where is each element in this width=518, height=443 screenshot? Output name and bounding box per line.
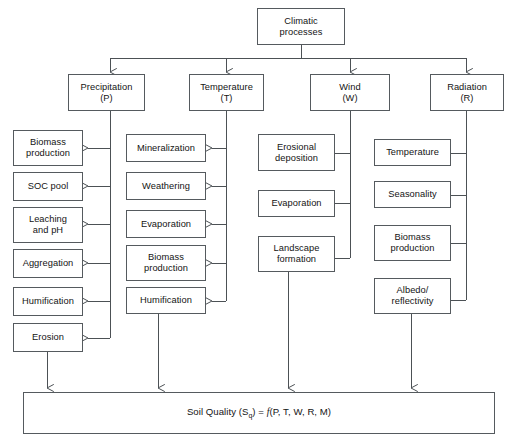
box-climatic-processes-label: Climatic processes [278,16,325,38]
box-soil-quality[interactable]: Soil Quality (Sq) = f(P, T, W, R, M) [23,392,495,434]
box-wind-label: Wind (W) [337,82,362,104]
box-temp-biomass-production-label: Biomass production [142,252,190,274]
soil-quality-prefix: Soil Quality (S [187,406,249,417]
box-radiation[interactable]: Radiation (R) [430,74,504,111]
box-precipitation-label: Precipitation (P) [79,82,135,104]
soil-quality-arguments: (P, T, W, R, M) [269,406,331,417]
box-precip-aggregation[interactable]: Aggregation [13,249,83,278]
box-temp-humification-label: Humification [138,295,194,306]
box-precip-leaching-and-ph-label: Leaching and pH [27,214,69,236]
box-precipitation[interactable]: Precipitation (P) [68,74,145,111]
box-climatic-processes[interactable]: Climatic processes [257,8,345,45]
box-wind[interactable]: Wind (W) [310,74,390,111]
box-precip-biomass-production[interactable]: Biomass production [13,130,83,166]
box-temp-mineralization[interactable]: Mineralization [126,134,206,162]
box-wind-evaporation-label: Evaporation [269,198,323,209]
box-temp-evaporation[interactable]: Evaporation [126,210,206,238]
box-wind-erosional-deposition-label: Erosional deposition [273,142,320,164]
box-precip-humification[interactable]: Humification [13,287,83,316]
box-precip-aggregation-label: Aggregation [21,258,76,269]
box-wind-landscape-formation-label: Landscape formation [272,243,322,265]
box-rad-seasonality[interactable]: Seasonality [374,181,451,208]
diagram-canvas: Climatic processes Precipitation (P) Tem… [0,0,518,443]
box-temperature[interactable]: Temperature (T) [189,74,264,111]
box-wind-evaporation[interactable]: Evaporation [258,190,335,217]
box-temperature-label: Temperature (T) [198,82,255,104]
box-precip-soc-pool-label: SOC pool [26,181,71,192]
box-wind-erosional-deposition[interactable]: Erosional deposition [258,134,335,171]
box-rad-biomass-production-label: Biomass production [389,232,437,254]
box-temp-evaporation-label: Evaporation [139,219,193,230]
box-precip-erosion-label: Erosion [30,332,66,343]
box-precip-biomass-production-label: Biomass production [24,137,72,159]
box-temp-weathering[interactable]: Weathering [126,172,206,200]
box-precip-leaching-and-ph[interactable]: Leaching and pH [13,207,83,243]
box-precip-erosion[interactable]: Erosion [13,323,83,352]
box-rad-albedo-reflectivity-label: Albedo/ reflectivity [390,285,436,307]
soil-quality-suffix: ) = [252,406,266,417]
box-rad-temperature-label: Temperature [384,147,441,158]
box-temp-weathering-label: Weathering [140,181,192,192]
box-precip-humification-label: Humification [20,296,76,307]
box-rad-temperature[interactable]: Temperature [374,139,451,166]
box-temp-humification[interactable]: Humification [126,287,206,314]
box-temp-mineralization-label: Mineralization [135,143,197,154]
box-rad-seasonality-label: Seasonality [386,189,439,200]
box-wind-landscape-formation[interactable]: Landscape formation [258,236,335,272]
box-rad-albedo-reflectivity[interactable]: Albedo/ reflectivity [374,278,451,314]
soil-quality-formula: Soil Quality (Sq) = f(P, T, W, R, M) [187,406,331,420]
box-radiation-label: Radiation (R) [445,82,489,104]
box-temp-biomass-production[interactable]: Biomass production [126,245,206,281]
box-precip-soc-pool[interactable]: SOC pool [13,172,83,201]
box-rad-biomass-production[interactable]: Biomass production [374,225,451,261]
